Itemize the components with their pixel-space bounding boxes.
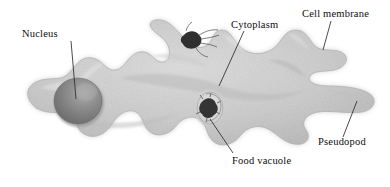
label-cell-membrane: Cell membrane [302, 8, 369, 19]
nucleus-highlight [75, 83, 97, 101]
amoeba-diagram: Nucleus Cytoplasm Cell membrane Food vac… [0, 0, 390, 187]
label-pseudopod: Pseudopod [318, 136, 366, 147]
label-cytoplasm: Cytoplasm [231, 19, 278, 30]
food-vacuole-group [195, 90, 225, 126]
cell-illustration [0, 0, 390, 187]
label-nucleus: Nucleus [22, 28, 58, 39]
leader-cell-membrane [323, 21, 331, 50]
label-food-vacuole: Food vacuole [232, 155, 291, 166]
